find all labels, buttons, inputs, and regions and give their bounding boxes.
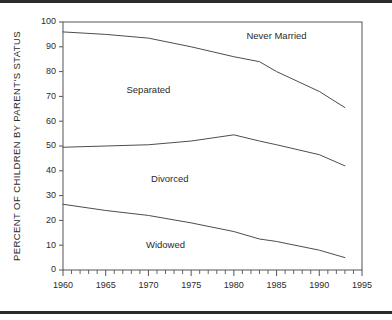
y-axis-ticks bbox=[59, 22, 63, 270]
series-line-widowed bbox=[63, 204, 345, 257]
y-axis-title: PERCENT OF CHILDREN BY PARENT'S STATUS bbox=[11, 31, 22, 261]
line-chart: 0102030405060708090100 19601965197019751… bbox=[0, 0, 392, 320]
y-tick-label: 50 bbox=[46, 140, 56, 150]
x-axis-ticks bbox=[63, 270, 362, 276]
x-tick-label: 1980 bbox=[224, 280, 244, 290]
series-label-separated: Separated bbox=[127, 84, 171, 95]
y-tick-label: 80 bbox=[46, 66, 56, 76]
y-tick-label: 60 bbox=[46, 116, 56, 126]
x-tick-label: 1970 bbox=[138, 280, 158, 290]
x-tick-label: 1960 bbox=[53, 280, 73, 290]
figure: 0102030405060708090100 19601965197019751… bbox=[0, 0, 392, 320]
x-tick-label: 1965 bbox=[96, 280, 116, 290]
series-label-divorced: Divorced bbox=[151, 173, 189, 184]
y-tick-label: 10 bbox=[46, 240, 56, 250]
y-tick-label: 100 bbox=[41, 16, 56, 26]
y-tick-label: 90 bbox=[46, 41, 56, 51]
x-axis-tick-labels: 19601965197019751980198519901995 bbox=[53, 280, 372, 290]
y-tick-label: 0 bbox=[51, 264, 56, 274]
y-axis-tick-labels: 0102030405060708090100 bbox=[41, 16, 56, 274]
series-label-widowed: Widowed bbox=[146, 239, 185, 250]
y-tick-label: 40 bbox=[46, 165, 56, 175]
series-line-divorced bbox=[63, 135, 345, 166]
y-tick-label: 20 bbox=[46, 215, 56, 225]
x-tick-label: 1995 bbox=[352, 280, 372, 290]
x-tick-label: 1985 bbox=[267, 280, 287, 290]
x-tick-label: 1975 bbox=[181, 280, 201, 290]
chart-plot-area: 0102030405060708090100 19601965197019751… bbox=[0, 0, 392, 320]
y-tick-label: 70 bbox=[46, 91, 56, 101]
series-line-never-married bbox=[63, 32, 345, 108]
y-tick-label: 30 bbox=[46, 190, 56, 200]
x-tick-label: 1990 bbox=[309, 280, 329, 290]
series-label-never-married: Never Married bbox=[246, 30, 306, 41]
series-lines bbox=[63, 32, 345, 258]
